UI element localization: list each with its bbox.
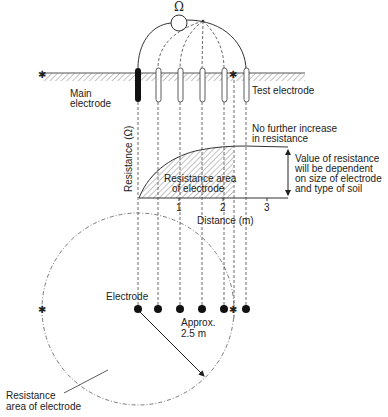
svg-text:✱: ✱: [38, 304, 46, 315]
no-increase-label-2: in resistance: [252, 133, 309, 144]
star-marker-left-plan: ✱: [38, 304, 46, 315]
main-electrode-label-2: electrode: [70, 98, 112, 109]
test-electrode-label: Test electrode: [252, 85, 315, 96]
wire-test: [187, 20, 246, 70]
resistance-area-label-2: of electrode: [172, 183, 225, 194]
approx-label-2: 2.5 m: [181, 328, 206, 339]
value-note-4: and type of soil: [295, 183, 362, 194]
svg-text:✱: ✱: [38, 69, 46, 80]
star-marker-right-ground: ✱: [229, 69, 237, 80]
wire-main: [138, 23, 171, 68]
electrode-label: Electrode: [106, 291, 149, 302]
x-tick-3: 3: [264, 202, 270, 213]
svg-text:✱: ✱: [229, 69, 237, 80]
star-marker-right-plan: ✱: [229, 304, 237, 315]
approx-label-1: Approx.: [181, 317, 215, 328]
x-tick-2: 2: [220, 202, 226, 213]
x-axis-label: Distance (m): [197, 215, 254, 226]
circle-note-1: Resistance: [6, 390, 56, 401]
circle-note-2: area of electrode: [6, 401, 81, 412]
ohm-symbol: Ω: [174, 0, 184, 14]
ohmmeter-icon: Ω: [171, 0, 187, 31]
star-marker-left-ground: ✱: [38, 69, 46, 80]
earth-electrode-diagram: ✱ ✱ Ω Main electro: [0, 0, 388, 417]
x-tick-1: 1: [176, 202, 182, 213]
test-electrode-rod: [244, 68, 249, 102]
ground-surface: [42, 73, 305, 81]
test-leads-dashed: [158, 20, 224, 68]
y-axis-label: Resistance (Ω): [123, 126, 134, 192]
leader-line: [64, 370, 108, 393]
projection-lines: [138, 80, 246, 318]
main-electrode-rod: [135, 68, 141, 102]
svg-text:✱: ✱: [229, 304, 237, 315]
